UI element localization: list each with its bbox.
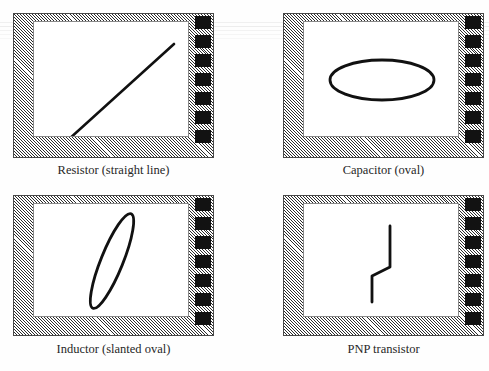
panel-resistor (13, 13, 214, 158)
key-square[interactable] (195, 54, 211, 67)
key-square[interactable] (465, 274, 481, 287)
key-square[interactable] (465, 130, 481, 143)
key-square[interactable] (465, 92, 481, 105)
key-square[interactable] (195, 111, 211, 124)
waveform-resistor (34, 22, 189, 137)
key-square[interactable] (195, 217, 211, 230)
waveform-inductor (34, 204, 189, 317)
key-square[interactable] (465, 35, 481, 48)
key-square[interactable] (195, 312, 211, 325)
key-column-resistor (195, 16, 211, 155)
key-square[interactable] (465, 255, 481, 268)
key-square[interactable] (465, 236, 481, 249)
key-square[interactable] (195, 130, 211, 143)
key-column-pnp-transistor (465, 198, 481, 333)
key-column-inductor (195, 198, 211, 333)
oscilloscope-screen-pnp-transistor (303, 203, 459, 317)
key-square[interactable] (195, 73, 211, 86)
key-square[interactable] (465, 217, 481, 230)
panel-pnp-transistor (283, 195, 484, 336)
key-square[interactable] (465, 198, 481, 211)
key-square[interactable] (465, 312, 481, 325)
key-square[interactable] (465, 16, 481, 29)
key-square[interactable] (195, 255, 211, 268)
key-column-capacitor (465, 16, 481, 155)
caption-resistor: Resistor (straight line) (13, 163, 214, 177)
key-square[interactable] (195, 92, 211, 105)
key-square[interactable] (195, 198, 211, 211)
key-square[interactable] (195, 293, 211, 306)
key-square[interactable] (195, 16, 211, 29)
oscilloscope-screen-capacitor (303, 21, 459, 137)
figure-grid: Resistor (straight line) Capacitor (oval… (0, 0, 489, 371)
caption-inductor: Inductor (slanted oval) (13, 342, 214, 356)
key-square[interactable] (465, 54, 481, 67)
key-square[interactable] (465, 293, 481, 306)
key-square[interactable] (195, 236, 211, 249)
oscilloscope-screen-resistor (33, 21, 189, 137)
key-square[interactable] (465, 73, 481, 86)
waveform-capacitor (304, 22, 459, 137)
caption-pnp-transistor: PNP transistor (283, 342, 484, 356)
caption-capacitor: Capacitor (oval) (283, 163, 484, 177)
key-square[interactable] (465, 111, 481, 124)
key-square[interactable] (195, 35, 211, 48)
panel-capacitor (283, 13, 484, 158)
waveform-pnp-transistor (304, 204, 459, 317)
key-square[interactable] (195, 274, 211, 287)
oscilloscope-screen-inductor (33, 203, 189, 317)
panel-inductor (13, 195, 214, 336)
